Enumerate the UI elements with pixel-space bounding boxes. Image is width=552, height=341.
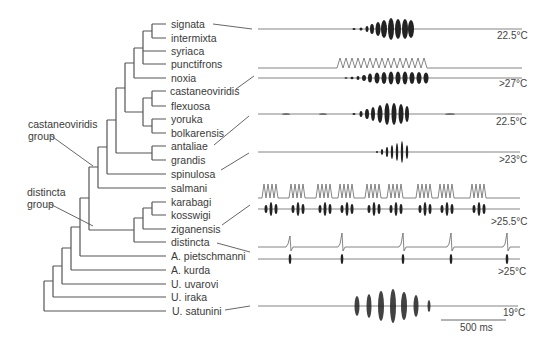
temperature-u-satunini: 19°C (503, 307, 525, 318)
taxon-u-iraka: U. iraka (171, 291, 207, 303)
distincta-group-label-line2: group (27, 198, 54, 210)
temperature-ziganensis: >25.5°C (491, 216, 528, 227)
taxon-flexuosa: flexuosa (171, 100, 210, 112)
taxon-distincta: distincta (171, 236, 210, 248)
oscillogram-punctifrons (258, 58, 522, 68)
oscillogram-bolkarensis (258, 103, 522, 125)
taxon-u-satunini: U. satunini (172, 305, 222, 317)
taxon-yoruka: yoruka (171, 113, 203, 125)
taxon-intermixta: intermixta (171, 32, 217, 44)
temperature-bolkarensis: 22.5°C (496, 116, 527, 127)
taxon-grandis: grandis (171, 154, 205, 166)
taxon-noxia: noxia (171, 72, 196, 84)
temperature-punctifrons-castaneoviridis: >27°C (499, 78, 527, 89)
phylogenetic-tree (44, 24, 166, 311)
taxon-punctifrons: punctifrons (171, 58, 222, 70)
taxon-a-kurda: A. kurda (171, 264, 210, 276)
temperature-distincta: >25°C (498, 266, 526, 277)
oscillogram-spinulosa (258, 141, 520, 163)
taxon-spinulosa: spinulosa (171, 168, 216, 180)
oscillogram-distincta (258, 233, 520, 264)
taxon-labels: signata intermixta syriaca punctifrons n… (170, 18, 246, 317)
castaneoviridis-group-pointer (50, 135, 93, 166)
phylogeny-figure: signata intermixta syriaca punctifrons n… (0, 0, 552, 341)
temperature-signata: 22.5°C (497, 30, 528, 41)
distincta-group-pointer (50, 204, 93, 226)
taxon-karabagi: karabagi (171, 196, 211, 208)
taxon-u-uvarovi: U. uvarovi (171, 278, 218, 290)
oscillogram-signata (258, 18, 522, 40)
scale-bar-label: 500 ms (460, 322, 493, 333)
distincta-group-label: distincta (27, 186, 66, 198)
oscillogram-castaneoviridis (258, 72, 522, 85)
taxon-kosswigi: kosswigi (171, 209, 211, 221)
temperature-spinulosa: >23°C (499, 154, 527, 165)
oscillogram-u-satunini (258, 289, 518, 323)
castaneoviridis-group-label: castaneoviridis (28, 118, 97, 130)
group-labels: castaneoviridis group distincta group (27, 118, 97, 226)
taxon-a-pietschmanni: A. pietschmanni (171, 250, 246, 262)
oscillogram-ziganensis (258, 184, 520, 216)
taxon-bolkarensis: bolkarensis (171, 127, 224, 139)
taxon-salmani: salmani (171, 182, 207, 194)
taxon-castaneoviridis: castaneoviridis (170, 85, 239, 97)
taxon-ziganensis: ziganensis (171, 223, 221, 235)
taxon-signata: signata (171, 18, 205, 30)
taxon-antaliae: antaliae (171, 140, 208, 152)
taxon-syriaca: syriaca (171, 45, 204, 57)
oscillograms: 22.5°C >27° (258, 18, 528, 333)
